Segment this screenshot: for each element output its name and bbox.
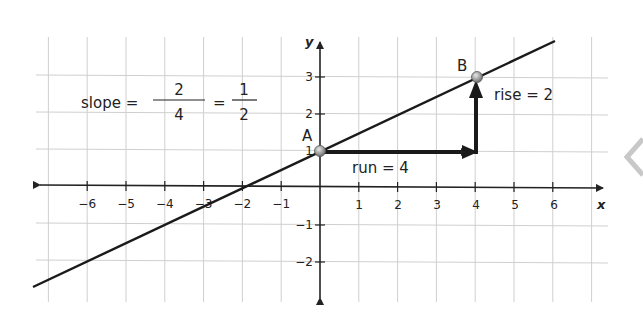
svg-text:−2: −2 — [295, 255, 313, 269]
svg-text:=: = — [213, 94, 226, 112]
svg-text:2: 2 — [394, 198, 402, 212]
svg-text:4: 4 — [174, 106, 184, 124]
svg-text:−5: −5 — [117, 197, 135, 211]
y-tick-labels: 3 2 1 −1 −2 — [295, 70, 313, 269]
svg-text:1: 1 — [239, 81, 249, 99]
svg-text:1: 1 — [355, 198, 363, 212]
slope-formula: slope = 2 4 = 1 2 — [81, 81, 257, 124]
svg-text:3: 3 — [433, 198, 441, 212]
svg-text:slope =: slope = — [81, 94, 138, 112]
svg-text:6: 6 — [550, 198, 558, 212]
x-axis — [40, 185, 603, 188]
point-b-label: B — [457, 57, 467, 75]
axes — [40, 42, 603, 298]
point-a — [315, 146, 326, 157]
svg-text:2: 2 — [239, 106, 249, 124]
chevron-left-icon[interactable] — [627, 139, 643, 175]
point-b — [472, 72, 483, 83]
svg-text:5: 5 — [511, 198, 519, 212]
svg-text:−1: −1 — [272, 197, 290, 211]
slope-chart: −6 −5 −4 −3 −2 −1 1 2 3 4 5 6 3 2 1 −1 −… — [0, 0, 643, 334]
x-axis-label: x — [596, 197, 606, 212]
svg-text:2: 2 — [305, 107, 313, 121]
svg-text:−6: −6 — [78, 197, 96, 211]
svg-text:2: 2 — [174, 81, 184, 99]
svg-text:−2: −2 — [234, 197, 252, 211]
rise-label: rise = 2 — [494, 86, 553, 104]
run-label: run = 4 — [352, 159, 409, 177]
svg-text:−1: −1 — [295, 218, 313, 232]
x-tick-labels: −6 −5 −4 −3 −2 −1 1 2 3 4 5 6 — [78, 197, 557, 212]
svg-text:4: 4 — [472, 198, 480, 212]
svg-text:−4: −4 — [156, 197, 174, 211]
svg-text:3: 3 — [305, 70, 313, 84]
y-axis-label: y — [305, 34, 314, 49]
point-a-label: A — [302, 127, 313, 145]
